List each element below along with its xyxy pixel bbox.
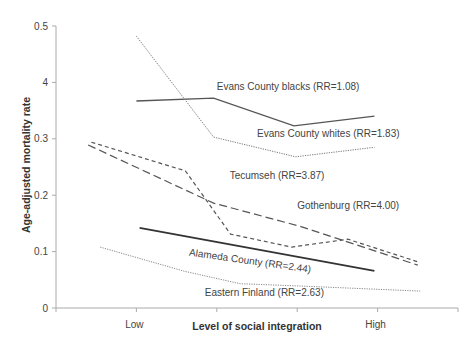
y-tick-label: 4 bbox=[42, 77, 48, 88]
series-label-4: Alameda County (RR=2.44) bbox=[188, 247, 311, 275]
y-tick-label: 0.1 bbox=[34, 246, 48, 257]
y-axis-title: Age-adjusted mortality rate bbox=[20, 97, 32, 233]
series-label-3: Gothenburg (RR=4.00) bbox=[297, 200, 399, 211]
series-label-0: Evans County blacks (RR=1.08) bbox=[217, 81, 360, 92]
x-axis-title: Level of social integration bbox=[192, 320, 322, 332]
y-tick-label: 0.3 bbox=[34, 133, 48, 144]
x-tick-label: Low bbox=[125, 319, 144, 330]
y-tick-label: 0.5 bbox=[34, 21, 48, 32]
labels-layer: Evans County blacks (RR=1.08)Evans Count… bbox=[188, 81, 399, 298]
y-tick-label: 0.2 bbox=[34, 190, 48, 201]
line-chart: 00.10.20.340.5LowHigh Evans County black… bbox=[0, 0, 474, 350]
series-label-5: Eastern Finland (RR=2.63) bbox=[205, 287, 324, 298]
x-tick-label: High bbox=[365, 319, 386, 330]
series-line-0 bbox=[136, 98, 374, 126]
series-line-5 bbox=[100, 247, 420, 291]
y-tick-label: 0 bbox=[42, 303, 48, 314]
series-layer bbox=[88, 36, 420, 291]
series-label-1: Evans County whites (RR=1.83) bbox=[257, 128, 400, 139]
series-label-2: Tecumseh (RR=3.87) bbox=[230, 170, 325, 181]
